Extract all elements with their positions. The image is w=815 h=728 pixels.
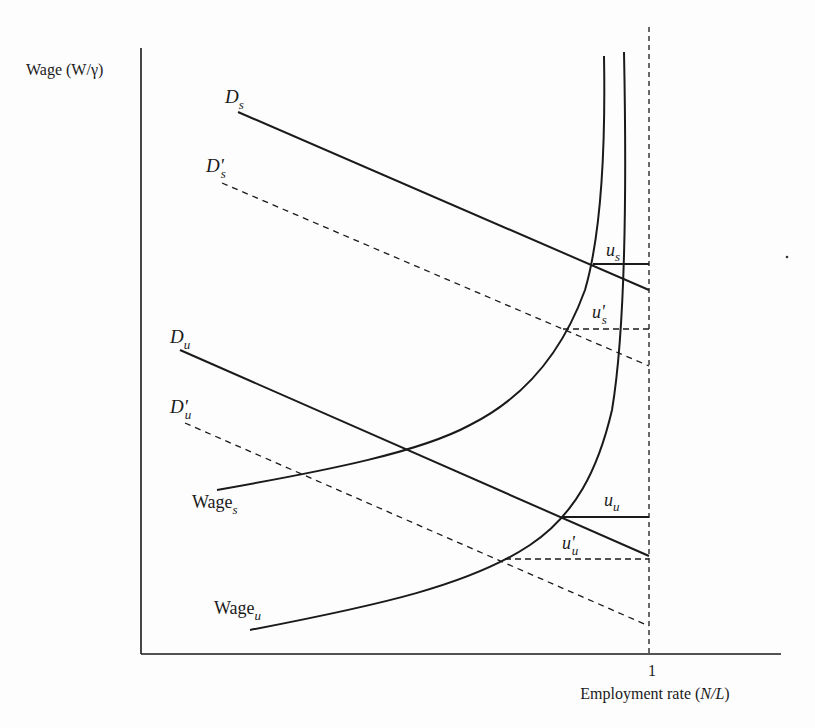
stray-dot [786, 256, 789, 259]
x-tick-one: 1 [648, 662, 656, 679]
label-wage-unskilled: Wageu [214, 598, 262, 623]
label-gap-uu: uu [604, 490, 620, 514]
demand-skilled-shifted-line [222, 183, 649, 366]
label-demand-unskilled: Du [169, 326, 191, 352]
axes [141, 48, 781, 654]
demand-unskilled-line [180, 350, 649, 556]
label-demand-skilled: Ds [224, 86, 244, 112]
label-gap-us-shifted: u's [592, 302, 607, 327]
demand-skilled-line [238, 112, 649, 290]
label-demand-unskilled-shifted: D'u [169, 396, 192, 422]
label-gap-uu-shifted: u'u [562, 533, 579, 558]
label-gap-us: us [606, 240, 620, 264]
x-axis-label: Employment rate (N/L) [580, 685, 729, 703]
label-wage-skilled: Wages [192, 492, 238, 517]
wage-skilled-curve [217, 56, 604, 490]
label-demand-skilled-shifted: D's [205, 155, 226, 181]
diagram-canvas: Wage (W/γ) Ds D's Du D'u Wages Wageu us … [0, 0, 815, 728]
y-axis-label: Wage (W/γ) [26, 61, 103, 79]
